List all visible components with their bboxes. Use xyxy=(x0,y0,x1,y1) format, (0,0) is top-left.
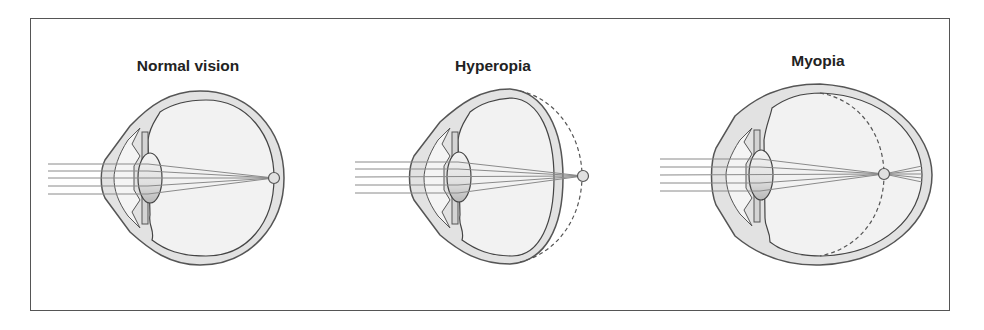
focal-point-hyperopia xyxy=(578,171,589,182)
eye-myopia xyxy=(660,84,932,265)
eye-normal-vision xyxy=(48,91,284,265)
focal-point-normal xyxy=(269,173,280,184)
eye-diagrams xyxy=(0,0,984,330)
focal-point-myopia xyxy=(879,169,890,180)
eye-hyperopia xyxy=(355,89,589,264)
